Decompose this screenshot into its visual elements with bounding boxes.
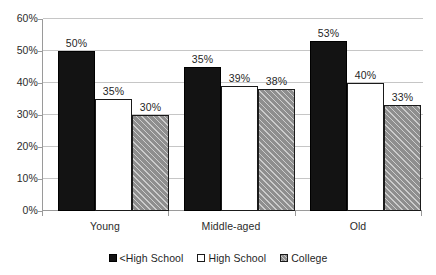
x-axis-tick-mark-1 xyxy=(168,211,169,216)
y-axis-tick-label-30: 30% xyxy=(0,109,38,120)
bar-value-label-young-lt-high-school: 50% xyxy=(51,38,102,49)
bar-old-lt-high-school[interactable] xyxy=(310,41,347,211)
legend-swatch-icon-lt-high-school xyxy=(109,254,117,262)
x-axis-tick-mark-2 xyxy=(295,211,296,216)
legend-swatch-icon-high-school xyxy=(197,254,205,262)
legend-item-college[interactable]: College xyxy=(280,252,327,264)
x-axis: Young Middle-aged Old xyxy=(42,211,422,241)
bar-group-old: 53% 40% 33% xyxy=(310,19,421,211)
bar-value-label-old-high-school: 40% xyxy=(340,70,391,81)
bar-value-label-young-college: 30% xyxy=(125,102,176,113)
bar-group-middle-aged: 35% 39% 38% xyxy=(184,19,295,211)
legend-label-lt-high-school: <High School xyxy=(120,252,184,264)
bar-young-college[interactable] xyxy=(132,115,169,211)
y-axis-tick-label-10: 10% xyxy=(0,173,38,184)
x-axis-tick-mark-3 xyxy=(421,211,422,216)
legend: <High School High School College xyxy=(0,252,436,264)
y-axis-tick-label-60: 60% xyxy=(0,13,38,24)
bar-middle-aged-lt-high-school[interactable] xyxy=(184,67,221,211)
bar-young-high-school[interactable] xyxy=(95,99,132,211)
bar-group-young: 50% 35% 30% xyxy=(58,19,169,211)
bar-old-college[interactable] xyxy=(384,105,421,211)
y-axis-tick-label-50: 50% xyxy=(0,45,38,56)
y-axis-tick-label-20: 20% xyxy=(0,141,38,152)
bar-value-label-middle-aged-college: 38% xyxy=(251,76,302,87)
y-axis-tick-label-40: 40% xyxy=(0,77,38,88)
legend-item-high-school[interactable]: High School xyxy=(197,252,266,264)
legend-swatch-icon-college xyxy=(280,254,288,262)
legend-label-high-school: High School xyxy=(208,252,266,264)
bar-value-label-old-college: 33% xyxy=(377,92,428,103)
bar-middle-aged-college[interactable] xyxy=(258,89,295,211)
bar-value-label-old-lt-high-school: 53% xyxy=(303,28,354,39)
x-axis-label-old: Old xyxy=(295,220,421,232)
bar-groups: 50% 35% 30% 35% 39% 38% xyxy=(42,19,422,211)
bar-chart: 60% 50% 40% 30% 20% 10% 0% 50% 35% xyxy=(0,0,436,275)
x-axis-tick-mark-0 xyxy=(42,211,43,216)
bar-value-label-middle-aged-lt-high-school: 35% xyxy=(177,54,228,65)
legend-item-lt-high-school[interactable]: <High School xyxy=(109,252,184,264)
x-axis-label-young: Young xyxy=(42,220,168,232)
legend-label-college: College xyxy=(291,252,327,264)
x-axis-label-middle-aged: Middle-aged xyxy=(168,220,294,232)
bar-value-label-young-high-school: 35% xyxy=(88,86,139,97)
bar-middle-aged-high-school[interactable] xyxy=(221,86,258,211)
y-axis-tick-label-0: 0% xyxy=(0,205,38,216)
y-axis: 60% 50% 40% 30% 20% 10% 0% xyxy=(0,0,38,275)
bar-young-lt-high-school[interactable] xyxy=(58,51,95,211)
